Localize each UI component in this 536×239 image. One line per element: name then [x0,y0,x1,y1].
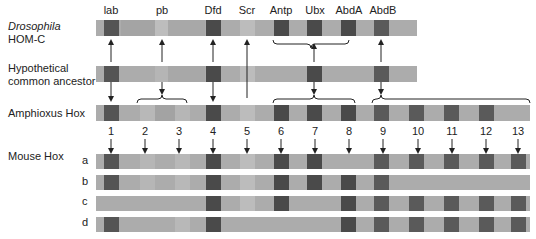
brace-6-8 [273,95,355,103]
mouse-hox-b-bar [96,175,530,190]
brace-antp-abda [273,40,349,48]
hox-diagram [0,0,536,239]
brace-pb-2-3 [137,95,187,103]
ancestor-bar [96,66,417,82]
mouse-hox-a-bar [96,154,530,169]
amphioxus-hox-bar [96,105,530,121]
paralog-mouse-arrows [111,139,518,151]
drosophila-hom-c-bar [96,20,417,36]
brace-9-13 [372,95,530,103]
ancestor-amphioxus-arrows [111,82,381,99]
mouse-hox-c-bar [96,196,530,211]
mouse-hox-d-bar [96,217,530,232]
